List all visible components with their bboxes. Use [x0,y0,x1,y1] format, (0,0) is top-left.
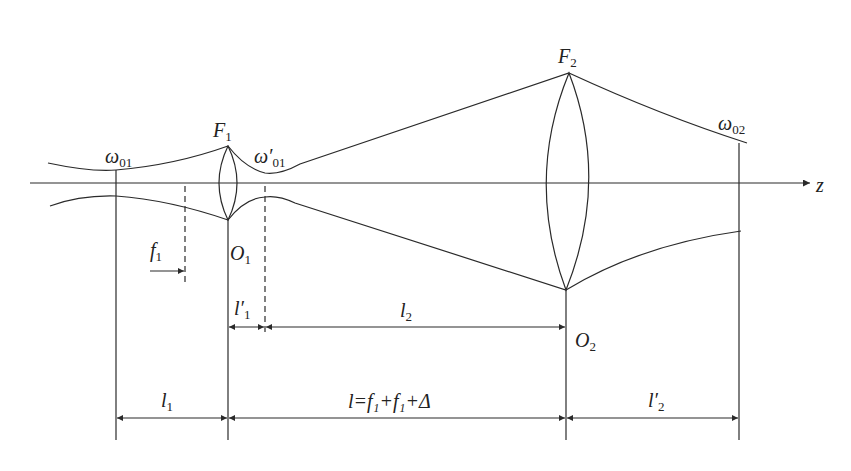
label-l2: l2 [400,300,412,323]
label-w01: ω01 [105,146,132,169]
beam-upper-envelope [48,73,747,173]
label-l2-prime: l′2 [648,390,664,413]
label-l1: l1 [161,390,173,413]
label-O1: O1 [230,243,251,266]
lens-2 [546,73,589,290]
label-l-total: l=f₁+f₁+Δ [348,391,431,411]
label-z-axis: z [816,175,824,195]
label-O2: O2 [575,330,596,353]
label-w02: ω02 [718,113,745,136]
label-l1-prime: l′1 [234,298,250,321]
label-w01-prime: ω′01 [254,146,286,169]
label-f1: f1 [150,240,162,263]
label-F2: F2 [558,46,577,69]
label-F1: F1 [213,120,232,143]
